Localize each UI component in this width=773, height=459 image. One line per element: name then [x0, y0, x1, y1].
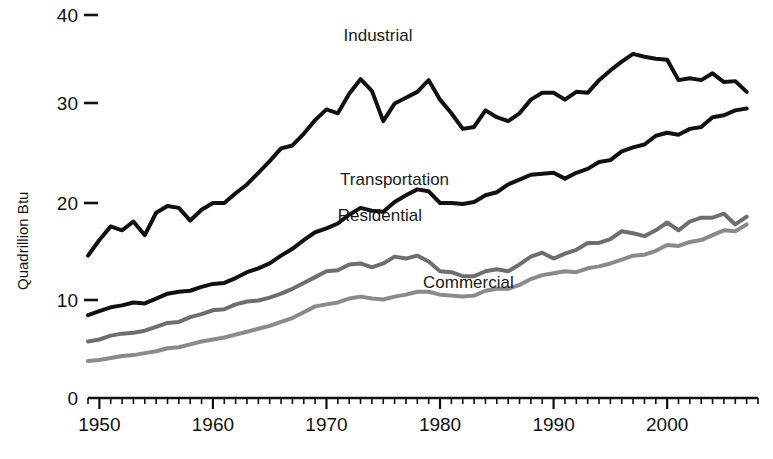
x-tick-label-2000: 2000	[646, 414, 688, 435]
y-tick-label-40: 40	[57, 5, 78, 26]
series-label-industrial: Industrial	[344, 26, 413, 45]
series-label-residential: Residential	[338, 206, 422, 225]
x-axis-tick-labels: 195019601970198019902000	[78, 414, 688, 435]
series-label-commercial: Commercial	[423, 273, 514, 292]
y-tick-label-30: 30	[57, 93, 78, 114]
x-tick-label-1970: 1970	[305, 414, 347, 435]
y-tick-label-0: 0	[67, 388, 78, 409]
chart-svg: Quadrillion Btu 40 30 20 10 0 1950196019…	[0, 0, 773, 459]
energy-consumption-by-sector-chart: Quadrillion Btu 40 30 20 10 0 1950196019…	[0, 0, 773, 459]
x-tick-label-1960: 1960	[192, 414, 234, 435]
series-line-residential	[88, 214, 747, 342]
y-axis-tick-labels: 40 30 20 10 0	[57, 5, 78, 409]
x-axis-ticks	[88, 398, 758, 409]
y-axis-title: Quadrillion Btu	[14, 192, 31, 290]
x-tick-label-1950: 1950	[78, 414, 120, 435]
series-inline-labels: IndustrialTransportationResidentialComme…	[338, 26, 514, 292]
x-tick-label-1980: 1980	[419, 414, 461, 435]
series-label-transportation: Transportation	[340, 170, 449, 189]
y-tick-label-10: 10	[57, 290, 78, 311]
x-tick-label-1990: 1990	[532, 414, 574, 435]
y-axis-ticks	[84, 15, 98, 300]
series-line-industrial	[88, 54, 747, 256]
y-tick-label-20: 20	[57, 193, 78, 214]
